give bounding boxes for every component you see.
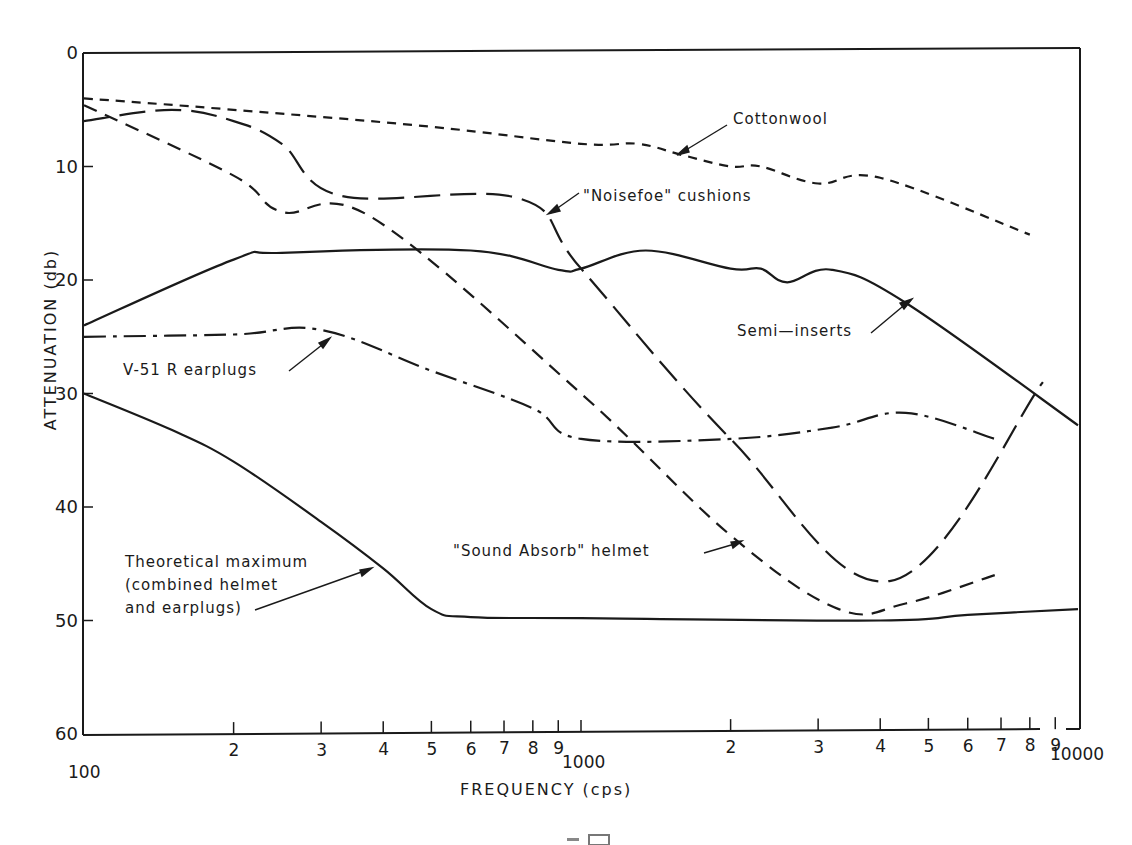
x-decade-label: 10000 (1050, 744, 1104, 764)
x-tick-label: 5 (923, 736, 934, 756)
x-tick-label: 6 (963, 736, 974, 756)
label-sound-absorb: "Sound Absorb" helmet (453, 542, 650, 560)
label-theoretical-3: and earplugs) (125, 599, 242, 617)
y-tick-label: 10 (38, 156, 78, 177)
x-tick-label: 7 (499, 738, 510, 758)
x-tick-label: 4 (875, 736, 886, 756)
label-cottonwool: Cottonwool (733, 110, 828, 128)
series-line-1 (84, 110, 1043, 582)
x-tick-label: 5 (426, 739, 437, 759)
x-tick-label: 2 (726, 737, 737, 757)
label-semi-inserts: Semi—inserts (737, 322, 852, 340)
y-axis-title: ATTENUATION (db) (41, 230, 60, 450)
series-line-3 (84, 249, 1078, 425)
x-tick-label: 8 (1025, 735, 1036, 755)
x-decade-label: 100 (68, 762, 100, 782)
label-v51r: V-51 R earplugs (123, 361, 257, 379)
x-tick-label: 8 (528, 738, 539, 758)
y-tick-label: 0 (38, 42, 78, 63)
label-theoretical-1: Theoretical maximum (125, 553, 308, 571)
y-tick-label: 40 (38, 496, 78, 517)
x-tick-label: 3 (316, 740, 327, 760)
y-tick-label: 50 (38, 610, 78, 631)
x-tick-label: 3 (813, 737, 824, 757)
x-axis-title: FREQUENCY (cps) (460, 780, 632, 799)
x-tick-label: 7 (996, 735, 1007, 755)
x-tick-label: 6 (466, 739, 477, 759)
x-tick-label: 2 (229, 740, 240, 760)
attenuation-chart (0, 0, 1132, 845)
series-line-0 (84, 98, 1030, 234)
label-noisefoe: "Noisefoe" cushions (583, 187, 752, 205)
x-decade-label: 1000 (562, 752, 605, 772)
label-theoretical-2: (combined helmet (125, 576, 278, 594)
x-tick-label: 4 (378, 739, 389, 759)
series-line-2 (84, 105, 995, 614)
page-marker (565, 820, 613, 845)
y-tick-label: 60 (38, 723, 78, 744)
series-line-4 (84, 328, 995, 442)
plot-frame (83, 48, 1080, 735)
